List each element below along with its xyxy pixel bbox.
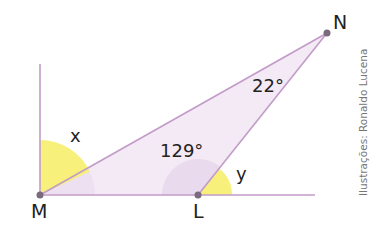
vertex-label-l: L bbox=[193, 200, 204, 222]
point-n bbox=[324, 30, 331, 37]
point-m bbox=[37, 192, 44, 199]
angle-label-y: y bbox=[236, 163, 247, 184]
illustration-credit: Ilustrações: Ronaldo Lucena bbox=[357, 49, 369, 196]
vertex-label-n: N bbox=[333, 11, 347, 33]
geometry-diagram: M L N x y 129° 22° Ilustrações: Ronaldo … bbox=[0, 0, 388, 248]
angle-label-x: x bbox=[70, 125, 81, 146]
vertex-label-m: M bbox=[31, 200, 47, 222]
angle-label-22: 22° bbox=[252, 75, 284, 96]
angle-label-129: 129° bbox=[160, 140, 203, 161]
point-l bbox=[195, 192, 202, 199]
